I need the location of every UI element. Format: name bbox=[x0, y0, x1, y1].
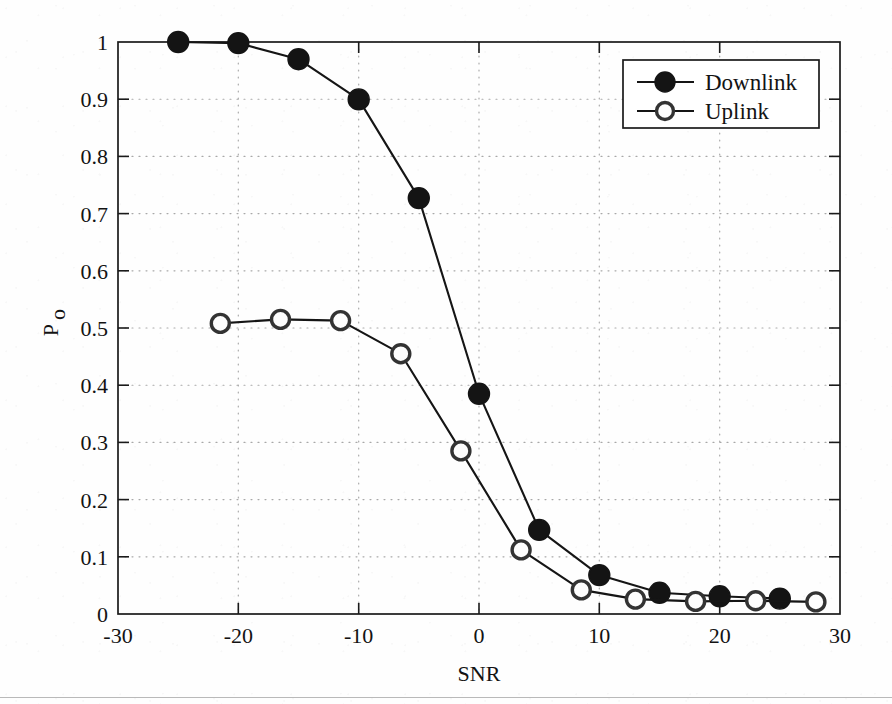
y-tick-label: 0.7 bbox=[81, 202, 109, 227]
x-tick-label: 0 bbox=[474, 623, 485, 648]
x-tick-label: 10 bbox=[588, 623, 610, 648]
uplink-point bbox=[211, 314, 229, 332]
downlink-point bbox=[709, 586, 730, 607]
downlink-point bbox=[408, 188, 429, 209]
y-tick-label: 0.5 bbox=[81, 316, 109, 341]
y-axis-tick-labels: 0 0.1 0.2 0.3 0.4 0.5 0.6 0.7 0.8 0.9 1 bbox=[81, 30, 109, 627]
legend-marker-uplink-icon bbox=[657, 103, 674, 120]
uplink-point bbox=[452, 442, 470, 460]
y-tick-label: 0.4 bbox=[81, 373, 109, 398]
y-axis-title-base: P bbox=[38, 324, 63, 336]
legend-label-downlink: Downlink bbox=[705, 70, 798, 95]
downlink-point bbox=[288, 49, 309, 70]
x-tick-label: -30 bbox=[103, 623, 132, 648]
y-tick-label: 0.1 bbox=[81, 545, 109, 570]
uplink-point bbox=[512, 541, 530, 559]
y-tick-label: 1 bbox=[97, 30, 108, 55]
y-tick-label: 0.6 bbox=[81, 259, 109, 284]
uplink-point bbox=[332, 312, 350, 330]
x-axis-title: SNR bbox=[458, 661, 501, 686]
outage-probability-vs-snr-chart: 0 0.1 0.2 0.3 0.4 0.5 0.6 0.7 0.8 0.9 1 … bbox=[0, 0, 892, 704]
y-tick-label: 0.8 bbox=[81, 144, 109, 169]
legend-entry-downlink[interactable]: Downlink bbox=[637, 70, 798, 95]
x-tick-label: -10 bbox=[344, 623, 373, 648]
y-tick-label: 0.3 bbox=[81, 430, 109, 455]
downlink-point bbox=[769, 588, 790, 609]
x-tick-label: 20 bbox=[709, 623, 731, 648]
x-tick-label: -20 bbox=[224, 623, 253, 648]
chart-legend[interactable]: Downlink Uplink bbox=[623, 60, 819, 128]
uplink-point bbox=[272, 310, 290, 328]
y-axis-title: P o bbox=[38, 309, 70, 336]
uplink-point bbox=[687, 592, 705, 610]
series-uplink bbox=[211, 310, 825, 611]
downlink-point bbox=[228, 33, 249, 54]
uplink-point bbox=[626, 590, 644, 608]
page-bottom-rule bbox=[0, 697, 892, 698]
figure-canvas: 0 0.1 0.2 0.3 0.4 0.5 0.6 0.7 0.8 0.9 1 … bbox=[0, 0, 892, 704]
legend-marker-downlink-icon bbox=[655, 72, 675, 92]
uplink-point bbox=[572, 581, 590, 599]
y-tick-label: 0.2 bbox=[81, 488, 109, 513]
x-axis-tick-labels: -30 -20 -10 0 10 20 30 bbox=[103, 623, 851, 648]
y-tick-label: 0.9 bbox=[81, 87, 109, 112]
x-tick-label: 30 bbox=[829, 623, 851, 648]
legend-label-uplink: Uplink bbox=[705, 99, 769, 124]
y-axis-title-subscript: o bbox=[45, 309, 70, 320]
downlink-point bbox=[589, 565, 610, 586]
downlink-point bbox=[529, 519, 550, 540]
uplink-point bbox=[747, 592, 765, 610]
downlink-point bbox=[168, 32, 189, 53]
downlink-point bbox=[348, 89, 369, 110]
downlink-point bbox=[469, 383, 490, 404]
uplink-point bbox=[807, 593, 825, 611]
uplink-point bbox=[392, 345, 410, 363]
